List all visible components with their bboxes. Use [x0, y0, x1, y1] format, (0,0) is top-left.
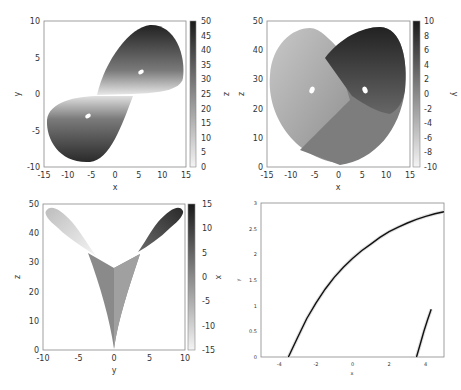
- x-axis-ticks: -15 -10 -5 0 5 10 15: [260, 171, 415, 180]
- x-axis-ticks: -4 -2 0 2 4: [277, 361, 427, 367]
- svg-text:-5: -5: [87, 171, 95, 180]
- svg-text:10: 10: [180, 354, 190, 363]
- svg-text:10: 10: [424, 17, 434, 26]
- svg-text:10: 10: [253, 134, 263, 143]
- svg-text:20: 20: [29, 288, 39, 297]
- y-axis-ticks: 0 10 20 30 40 50: [253, 17, 263, 172]
- svg-text:4: 4: [424, 361, 427, 367]
- svg-text:-10: -10: [202, 322, 215, 331]
- colorbar-ticks: -15 -10 -5 0 5 10 15: [202, 200, 215, 355]
- svg-text:25: 25: [201, 90, 211, 99]
- attractor-lobe-left: [47, 96, 133, 162]
- svg-text:1: 1: [254, 303, 257, 309]
- svg-text:5: 5: [202, 249, 207, 258]
- svg-text:0: 0: [112, 171, 117, 180]
- svg-text:0: 0: [35, 90, 40, 99]
- svg-text:0: 0: [424, 90, 429, 99]
- svg-text:30: 30: [201, 75, 211, 84]
- svg-text:10: 10: [30, 17, 40, 26]
- svg-text:-6: -6: [424, 134, 432, 143]
- svg-text:6: 6: [424, 46, 429, 55]
- svg-text:50: 50: [29, 200, 39, 209]
- panel-top-left: -15 -10 -5 0 5 10 15 -10 -5 0 5 10 x y 0…: [13, 17, 231, 192]
- svg-text:0: 0: [336, 171, 341, 180]
- svg-text:-4: -4: [424, 119, 432, 128]
- svg-text:50: 50: [253, 17, 263, 26]
- svg-text:50: 50: [201, 17, 211, 26]
- svg-text:10: 10: [202, 224, 212, 233]
- svg-text:35: 35: [201, 61, 211, 70]
- svg-text:-10: -10: [36, 354, 49, 363]
- svg-text:5: 5: [147, 354, 152, 363]
- svg-text:1.5: 1.5: [249, 277, 257, 283]
- svg-text:-10: -10: [61, 171, 74, 180]
- colorbar: [188, 204, 195, 350]
- svg-text:0: 0: [111, 354, 116, 363]
- svg-text:-10: -10: [424, 163, 437, 172]
- svg-text:-4: -4: [277, 361, 282, 367]
- svg-text:3: 3: [254, 200, 257, 206]
- y-axis-label: z: [237, 92, 246, 96]
- svg-text:-5: -5: [75, 354, 83, 363]
- svg-text:2: 2: [254, 251, 257, 257]
- svg-text:20: 20: [253, 105, 263, 114]
- svg-text:-5: -5: [32, 127, 40, 136]
- attractor-lobe-right: [97, 25, 183, 95]
- svg-text:-2: -2: [424, 105, 432, 114]
- y-axis-ticks: 0 10 20 30 40 50: [29, 200, 39, 355]
- y-axis-ticks: 0 0.5 1 1.5 2 2.5 3: [249, 200, 257, 360]
- panel-top-right: -15 -10 -5 0 5 10 15 0 10 20 30 40 50 x …: [237, 17, 459, 192]
- svg-text:-5: -5: [202, 297, 210, 306]
- line-series-2-core: [417, 309, 432, 357]
- svg-text:40: 40: [253, 46, 263, 55]
- line-series-1-core: [288, 212, 444, 357]
- svg-text:45: 45: [201, 32, 211, 41]
- panel-bottom-right: -4 -2 0 2 4 0 0.5 1 1.5 2 2.5 3 x y: [235, 200, 444, 376]
- svg-text:-5: -5: [311, 171, 319, 180]
- svg-text:2.5: 2.5: [249, 226, 257, 232]
- colorbar-label: z: [222, 92, 231, 96]
- y-axis-label: y: [13, 91, 22, 96]
- svg-text:-10: -10: [27, 163, 40, 172]
- svg-text:5: 5: [360, 171, 365, 180]
- svg-text:0: 0: [254, 354, 257, 360]
- svg-text:15: 15: [202, 200, 212, 209]
- figure-canvas: -15 -10 -5 0 5 10 15 -10 -5 0 5 10 x y 0…: [0, 0, 461, 390]
- x-axis-label: y: [112, 366, 117, 375]
- y-axis-label: z: [13, 275, 22, 279]
- svg-text:5: 5: [201, 148, 206, 157]
- x-axis-label: x: [351, 370, 354, 376]
- svg-text:30: 30: [253, 75, 263, 84]
- svg-text:2: 2: [388, 361, 391, 367]
- svg-text:15: 15: [405, 171, 415, 180]
- y-axis-label: y: [235, 278, 242, 281]
- colorbar-ticks: -10 -8 -6 -4 -2 0 2 4 6 8 10: [424, 17, 437, 172]
- line-series-1: [288, 212, 444, 357]
- svg-text:-15: -15: [37, 171, 50, 180]
- svg-text:5: 5: [35, 54, 40, 63]
- svg-text:8: 8: [424, 32, 429, 41]
- x-axis-label: x: [113, 183, 118, 192]
- x-axis-label: x: [336, 183, 341, 192]
- svg-text:15: 15: [201, 119, 211, 128]
- svg-text:15: 15: [181, 171, 191, 180]
- svg-text:5: 5: [136, 171, 141, 180]
- svg-text:0: 0: [201, 163, 206, 172]
- svg-text:0: 0: [202, 273, 207, 282]
- colorbar-label: y: [450, 92, 459, 97]
- svg-text:10: 10: [201, 134, 211, 143]
- svg-text:2: 2: [424, 75, 429, 84]
- colorbar-ticks: 0 5 10 15 20 25 30 35 40 45 50: [201, 17, 211, 172]
- attractor-left-wing: [46, 208, 97, 256]
- colorbar-label: x: [214, 275, 223, 280]
- svg-text:40: 40: [29, 229, 39, 238]
- svg-text:-10: -10: [284, 171, 297, 180]
- x-axis-ticks: -15 -10 -5 0 5 10 15: [37, 171, 191, 180]
- svg-text:4: 4: [424, 61, 429, 70]
- svg-text:0: 0: [351, 361, 354, 367]
- attractor-right-facet: [114, 254, 140, 349]
- y-axis-ticks: -10 -5 0 5 10: [27, 17, 40, 172]
- svg-text:20: 20: [201, 105, 211, 114]
- svg-text:30: 30: [29, 258, 39, 267]
- svg-text:0.5: 0.5: [249, 328, 257, 334]
